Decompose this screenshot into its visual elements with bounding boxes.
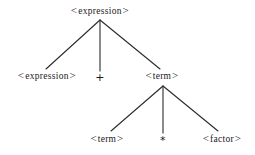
angle-bracket-close-icon: >	[69, 69, 77, 81]
angle-bracket-open-icon: <	[145, 69, 153, 81]
tree-node-plus: +	[95, 72, 105, 83]
tree-node-label: *	[160, 134, 166, 147]
angle-bracket-close-icon: >	[116, 132, 124, 144]
tree-node-label: factor	[210, 134, 234, 144]
angle-bracket-close-icon: >	[171, 69, 179, 81]
angle-bracket-open-icon: <	[70, 4, 78, 16]
tree-node-root: <expression>	[70, 5, 130, 17]
tree-node-label: expression	[78, 6, 122, 16]
tree-node-star: *	[160, 135, 166, 146]
tree-node-term-leaf: <term>	[90, 133, 125, 145]
angle-bracket-open-icon: <	[202, 132, 210, 144]
tree-edge	[111, 86, 163, 131]
angle-bracket-close-icon: >	[234, 132, 242, 144]
tree-node-expr-left: <expression>	[17, 70, 77, 82]
angle-bracket-close-icon: >	[122, 4, 130, 16]
tree-node-factor: <factor>	[202, 133, 242, 145]
tree-node-label: term	[98, 134, 117, 144]
tree-node-term-right: <term>	[145, 70, 180, 82]
tree-edge	[100, 20, 160, 69]
angle-bracket-open-icon: <	[90, 132, 98, 144]
tree-edge	[46, 20, 100, 69]
tree-node-label: expression	[25, 71, 69, 81]
angle-bracket-open-icon: <	[17, 69, 25, 81]
tree-node-label: +	[95, 71, 105, 84]
tree-node-label: term	[153, 71, 172, 81]
parse-tree-diagram: <expression><expression>+<term><term>*<f…	[0, 0, 255, 155]
tree-edge	[163, 86, 218, 131]
